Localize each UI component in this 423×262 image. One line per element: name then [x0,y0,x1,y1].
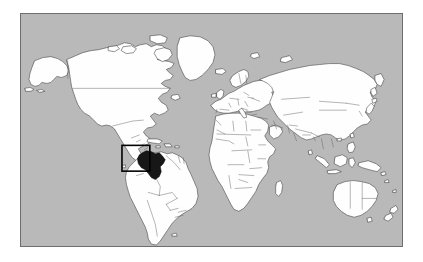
land-island-solomon [381,172,386,176]
land-island-taiwan [350,133,354,138]
land-jamaica [156,146,160,148]
land-sri-lanka [308,150,312,155]
world-locator-figure [0,0,423,262]
land-tasmania [367,217,372,222]
land-puerto-rico [175,146,179,148]
world-map [21,14,402,246]
map-frame [20,13,403,247]
land-ireland [212,93,216,97]
